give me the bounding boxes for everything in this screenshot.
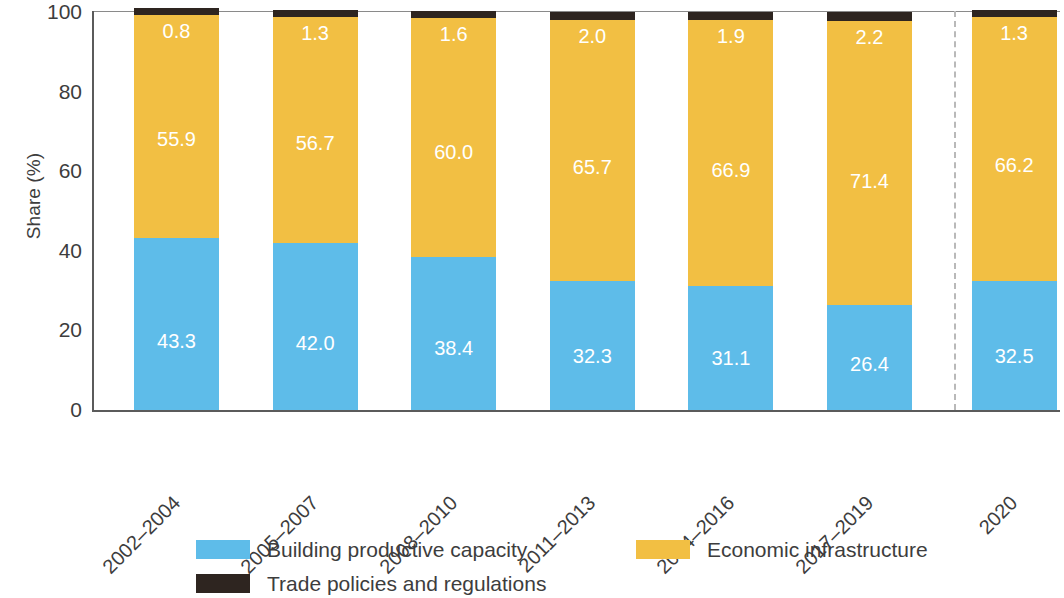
bar-segment-building-productive-capacity: 43.3 — [134, 238, 219, 410]
bar-segment-trade-policies-and-regulations: 1.6 — [411, 11, 496, 18]
bar-segment-building-productive-capacity: 32.5 — [972, 281, 1057, 410]
bar-value-label: 66.9 — [688, 160, 773, 180]
bar-value-label: 43.3 — [134, 331, 219, 351]
bar-segment-economic-infrastructure: 66.9 — [688, 20, 773, 286]
y-tick-label: 0 — [24, 399, 82, 420]
y-tick-label: 20 — [24, 319, 82, 340]
bar-value-label: 56.7 — [273, 133, 358, 153]
bar-value-label: 32.5 — [972, 346, 1057, 366]
legend-item[interactable]: Trade policies and regulations — [196, 570, 546, 596]
legend-item[interactable]: Economic infrastructure — [636, 536, 928, 562]
bar-stack: 42.056.71.3 — [273, 12, 358, 410]
y-axis-line — [92, 11, 94, 412]
bar-segment-trade-policies-and-regulations: 1.3 — [972, 10, 1057, 17]
bar-stack: 26.471.42.2 — [827, 12, 912, 410]
bar-value-label: 1.9 — [688, 26, 773, 46]
bar-value-label: 65.7 — [550, 157, 635, 177]
bar-value-label: 66.2 — [972, 155, 1057, 175]
bar-segment-economic-infrastructure: 56.7 — [273, 17, 358, 243]
legend-item-label: Building productive capacity — [267, 539, 527, 560]
legend-item[interactable]: Building productive capacity — [196, 536, 527, 562]
bar-segment-economic-infrastructure: 60.0 — [411, 18, 496, 257]
legend-color-swatch-icon — [196, 574, 250, 593]
bar-value-label: 42.0 — [273, 333, 358, 353]
bar-value-label: 26.4 — [827, 354, 912, 374]
bar-value-label: 32.3 — [550, 346, 635, 366]
y-tick-label: 60 — [24, 160, 82, 181]
bar-segment-trade-policies-and-regulations: 1.3 — [273, 10, 358, 17]
y-tick-label: 80 — [24, 81, 82, 102]
bar-value-label: 1.6 — [411, 24, 496, 44]
x-axis-line — [92, 410, 1060, 412]
bar-value-label: 2.2 — [827, 27, 912, 47]
bar-stack: 38.460.01.6 — [411, 12, 496, 410]
plot-area: 43.355.90.842.056.71.338.460.01.632.365.… — [92, 11, 1060, 412]
bar-segment-economic-infrastructure: 55.9 — [134, 15, 219, 237]
bar-value-label: 55.9 — [134, 129, 219, 149]
bar-value-label: 38.4 — [411, 338, 496, 358]
bar-value-label: 0.8 — [134, 21, 219, 41]
bar-stack: 43.355.90.8 — [134, 12, 219, 410]
bar-segment-trade-policies-and-regulations: 0.8 — [134, 8, 219, 15]
bar-value-label: 60.0 — [411, 142, 496, 162]
bar-segment-economic-infrastructure: 71.4 — [827, 21, 912, 305]
bar-segment-building-productive-capacity: 31.1 — [688, 286, 773, 410]
legend-item-label: Trade policies and regulations — [267, 573, 546, 594]
bar-value-label: 2.0 — [550, 26, 635, 46]
y-axis-tick-labels: 020406080100 — [20, 0, 82, 598]
bar-segment-economic-infrastructure: 65.7 — [550, 20, 635, 281]
legend-color-swatch-icon — [636, 540, 690, 559]
bar-value-label: 1.3 — [273, 23, 358, 43]
bar-segment-trade-policies-and-regulations: 2.0 — [550, 12, 635, 20]
bar-value-label: 71.4 — [827, 171, 912, 191]
bar-stack: 32.365.72.0 — [550, 12, 635, 410]
chart-legend: Building productive capacityEconomic inf… — [196, 536, 996, 598]
bar-segment-building-productive-capacity: 32.3 — [550, 281, 635, 410]
y-tick-label: 100 — [24, 1, 82, 22]
bar-stack: 31.166.91.9 — [688, 12, 773, 410]
bar-value-label: 31.1 — [688, 348, 773, 368]
stacked-bar-chart: Share (%) 020406080100 43.355.90.842.056… — [0, 0, 1064, 598]
legend-color-swatch-icon — [196, 540, 250, 559]
bar-segment-economic-infrastructure: 66.2 — [972, 17, 1057, 280]
category-separator-line — [954, 11, 956, 410]
y-tick-label: 40 — [24, 240, 82, 261]
bar-value-label: 1.3 — [972, 23, 1057, 43]
legend-item-label: Economic infrastructure — [707, 539, 928, 560]
bar-segment-building-productive-capacity: 26.4 — [827, 305, 912, 410]
bar-stack: 32.566.21.3 — [972, 12, 1057, 410]
bar-segment-building-productive-capacity: 42.0 — [273, 243, 358, 410]
bar-segment-trade-policies-and-regulations: 2.2 — [827, 12, 912, 21]
bar-segment-trade-policies-and-regulations: 1.9 — [688, 12, 773, 20]
bar-segment-building-productive-capacity: 38.4 — [411, 257, 496, 410]
